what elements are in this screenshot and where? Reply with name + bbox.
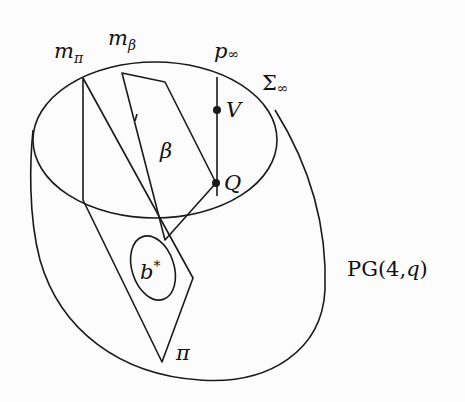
label-pg-space: PG(4,q) [347, 257, 428, 281]
label-m-beta: mβ [108, 26, 136, 53]
point-v [213, 106, 221, 114]
diagram-canvas: mπ mβ p∞ Σ∞ V Q β b* π PG(4,q) [0, 0, 465, 402]
point-q [212, 179, 220, 187]
label-pi: π [175, 341, 191, 365]
label-sigma-infinity: Σ∞ [262, 71, 289, 96]
label-beta: β [159, 139, 172, 163]
label-p-infinity: p∞ [214, 39, 239, 63]
label-m-pi: mπ [54, 39, 84, 66]
pg-space-outline [31, 110, 326, 380]
label-b-star: b* [140, 258, 160, 284]
pi-plane [83, 78, 193, 362]
label-q: Q [224, 171, 241, 195]
label-v: V [226, 98, 243, 122]
beta-tick [135, 114, 137, 121]
